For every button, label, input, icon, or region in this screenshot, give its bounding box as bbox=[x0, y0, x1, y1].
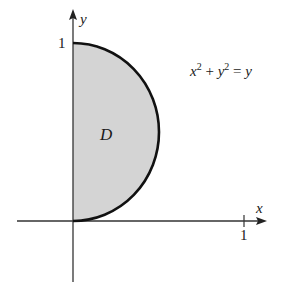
y-tick-label: 1 bbox=[58, 35, 66, 51]
diagram: y 1 x 1 D x2 + y2 = y bbox=[0, 0, 281, 291]
curve-equation-label: x2 + y2 = y bbox=[189, 61, 252, 79]
region-label: D bbox=[99, 125, 113, 144]
y-axis-label: y bbox=[78, 11, 87, 27]
eq-equals: = bbox=[229, 63, 245, 79]
x-axis-label: x bbox=[255, 200, 263, 216]
eq-plus: + bbox=[202, 63, 218, 79]
eq-rhs: y bbox=[243, 63, 252, 79]
x-tick-label: 1 bbox=[240, 227, 248, 243]
region-d bbox=[73, 44, 159, 220]
eq-y: y bbox=[216, 63, 225, 79]
